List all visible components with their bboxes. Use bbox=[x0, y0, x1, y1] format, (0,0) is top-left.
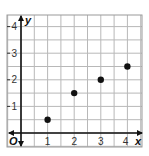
origin-label: O bbox=[9, 135, 18, 147]
x-axis-label: x bbox=[134, 135, 142, 147]
svg-text:1: 1 bbox=[45, 136, 51, 147]
svg-text:3: 3 bbox=[98, 136, 104, 147]
svg-text:4: 4 bbox=[11, 21, 17, 32]
svg-text:2: 2 bbox=[11, 74, 17, 85]
data-point bbox=[124, 63, 130, 69]
svg-text:1: 1 bbox=[11, 101, 17, 112]
coordinate-plane: 12341234 x y O bbox=[0, 0, 149, 156]
axes bbox=[8, 15, 143, 147]
svg-text:4: 4 bbox=[123, 136, 129, 147]
grid-lines bbox=[7, 15, 142, 147]
y-axis-label: y bbox=[24, 14, 32, 26]
data-point bbox=[71, 90, 77, 96]
data-point bbox=[44, 117, 50, 123]
svg-text:2: 2 bbox=[71, 136, 77, 147]
svg-text:3: 3 bbox=[11, 48, 17, 59]
data-point bbox=[98, 77, 104, 83]
